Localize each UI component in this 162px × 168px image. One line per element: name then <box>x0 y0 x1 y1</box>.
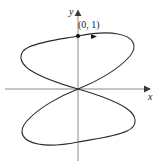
y-axis-label: y <box>69 7 73 17</box>
y-axis <box>75 10 82 162</box>
point-marker-0-1 <box>76 34 80 38</box>
parametric-curve-figure: y x (0, 1) <box>0 0 162 168</box>
y-axis-arrowhead <box>75 10 82 17</box>
point-label-0-1: (0, 1) <box>78 20 100 30</box>
curve-upper-lobe <box>21 33 134 89</box>
curve-lower-lobe <box>22 89 135 145</box>
x-axis-label: x <box>148 92 152 102</box>
direction-arrow-icon <box>91 34 97 39</box>
